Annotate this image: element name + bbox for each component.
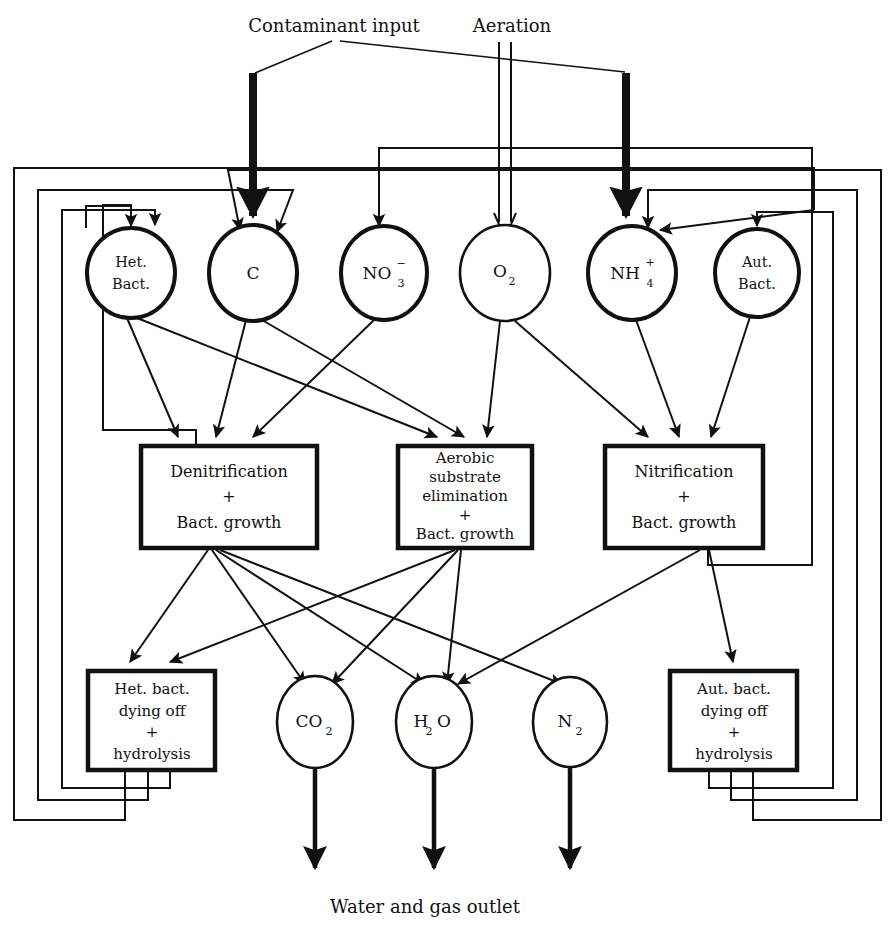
box-nitrification-line-2: + [677,487,690,506]
leader-contaminant-left [255,41,332,73]
box-het-dying-line-3: + [146,723,159,741]
node-n2-subscript: 2 [576,725,583,738]
node-het-bact-label-1: Het. [115,254,147,270]
box-aut-dying[interactable]: Aut. bact. dying off + hydrolysis [670,671,797,770]
box-aut-dying-line-4: hydrolysis [695,745,772,763]
arrow-hetbact-denit [127,318,178,437]
process-boxes-group: Denitrification + Bact. growth Aerobic s… [141,446,763,548]
box-het-dying-line-2: dying off [119,702,187,720]
node-o2[interactable]: O 2 [460,225,550,321]
box-aerobic-line-3: elimination [422,487,508,505]
box-aerobic-line-5: Bact. growth [416,525,515,543]
label-aeration: Aeration [472,15,552,36]
node-h2o-subscript: 2 [426,725,433,738]
box-denitrification[interactable]: Denitrification + Bact. growth [141,446,317,548]
box-aerobic-line-4: + [459,506,472,524]
box-het-dying[interactable]: Het. bact. dying off + hydrolysis [88,671,215,770]
arrow-c-aerobic [262,320,464,437]
box-nitrification[interactable]: Nitrification + Bact. growth [605,446,763,548]
node-c-label: C [246,263,259,283]
node-no3-superscript: − [396,257,405,270]
node-nh4[interactable]: NH 4 + [588,226,676,320]
outlet-arrows-group [315,767,570,868]
arrow-o2-nitrif [515,321,648,437]
arrow-nitrif-autdying [709,550,733,662]
box-denitrification-line-3: Bact. growth [177,513,282,532]
arrow-no3-denit [253,320,374,437]
arrow-hetbact-aerobic [137,318,437,437]
node-nh4-subscript: 4 [647,277,654,290]
box-aerobic-line-1: Aerobic [435,449,495,467]
node-nh4-label: NH [610,263,640,283]
box-nitrification-line-3: Bact. growth [632,513,737,532]
node-het-bact[interactable]: Het. Bact. [87,228,175,318]
node-aut-bact-label-1: Aut. [741,254,772,270]
box-aut-dying-line-2: dying off [701,702,769,720]
box-het-dying-line-1: Het. bact. [114,680,189,698]
arrow-denit-hetdying [130,550,208,662]
node-aut-bact[interactable]: Aut. Bact. [715,229,799,317]
state-nodes-group: Het. Bact. C NO 3 − O 2 NH 4 + Aut. Ba [87,225,799,321]
box-aut-dying-line-3: + [728,723,741,741]
input-leaders-group [255,41,625,73]
arrow-aerobic-co2 [332,550,458,684]
arrow-aerobic-h2o [447,550,461,684]
arrow-denit-co2 [212,550,305,684]
node-h2o[interactable]: H 2 O [396,676,472,768]
node-o2-subscript: 2 [509,275,516,288]
arrow-aerobic-hetdying [170,550,455,662]
node-het-bact-label-2: Bact. [112,276,150,292]
arrow-nitrif-h2o [458,550,700,684]
box-denitrification-line-2: + [222,487,235,506]
process-diagram: Het. Bact. C NO 3 − O 2 NH 4 + Aut. Ba [0,0,896,934]
node-n2[interactable]: N 2 [533,677,607,767]
node-co2-label: CO [296,711,323,731]
arrow-nh4-nitrif [636,320,679,437]
node-aut-bact-label-2: Bact. [738,276,776,292]
box-aerobic-line-2: substrate [429,468,501,486]
box-denitrification-line-1: Denitrification [170,462,288,481]
node-o2-label: O [493,261,507,281]
state-to-process-arrows [127,317,750,437]
leader-contaminant-right [340,41,625,72]
node-no3[interactable]: NO 3 − [341,226,427,320]
box-aut-dying-line-1: Aut. bact. [696,680,771,698]
node-no3-subscript: 3 [398,277,405,290]
product-nodes-group: CO 2 H 2 O N 2 [277,676,607,768]
arrow-o2-aerobic [487,321,500,437]
node-nh4-superscript: + [645,256,654,269]
node-h2o-label-post: O [437,711,451,731]
arrow-c-denit [216,320,246,437]
box-aerobic[interactable]: Aerobic substrate elimination + Bact. gr… [398,446,532,548]
node-co2-subscript: 2 [326,725,333,738]
node-co2[interactable]: CO 2 [277,676,353,768]
process-to-product-arrows [130,550,733,684]
box-nitrification-line-1: Nitrification [635,462,734,481]
arrow-autbact-nitrif [711,317,750,437]
node-c[interactable]: C [209,225,297,321]
node-n2-label: N [558,711,573,731]
label-contaminant-input: Contaminant input [248,15,420,36]
diagram-canvas: Het. Bact. C NO 3 − O 2 NH 4 + Aut. Ba [0,0,896,934]
label-water-gas-outlet: Water and gas outlet [330,896,521,917]
node-no3-label: NO [363,263,392,283]
external-inputs-group [253,42,626,238]
box-het-dying-line-4: hydrolysis [113,745,190,763]
